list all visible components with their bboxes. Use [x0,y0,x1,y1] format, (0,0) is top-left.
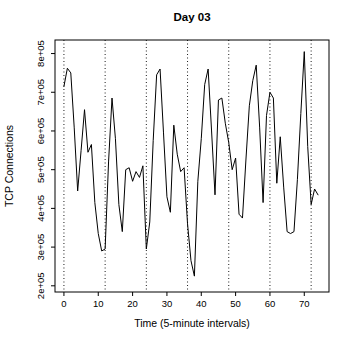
x-tick-label: 0 [61,298,66,309]
y-tick-label: 6e+05 [35,118,46,145]
x-tick-label: 10 [93,298,104,309]
hour-gridlines [64,40,311,292]
x-axis-label: Time (5-minute intervals) [134,317,250,329]
chart-title: Day 03 [173,11,210,23]
plot-border [55,40,329,292]
chart-canvas: Day 03 010203040506070 2e+053e+054e+055e… [0,0,345,346]
tcp-connections-line [64,52,318,277]
y-axis-ticks: 2e+053e+054e+055e+056e+057e+058e+05 [35,40,55,299]
x-tick-label: 30 [162,298,173,309]
x-tick-label: 50 [230,298,241,309]
r-plot-figure: Day 03 010203040506070 2e+053e+054e+055e… [0,0,345,346]
y-tick-label: 8e+05 [35,40,46,67]
y-tick-label: 4e+05 [35,195,46,222]
y-axis-label: TCP Connections [3,125,15,207]
x-tick-label: 20 [127,298,138,309]
y-tick-label: 2e+05 [35,272,46,299]
y-tick-label: 7e+05 [35,79,46,106]
y-tick-label: 5e+05 [35,156,46,183]
data-series [64,52,318,277]
y-tick-label: 3e+05 [35,234,46,261]
x-tick-label: 40 [196,298,207,309]
x-axis-ticks: 010203040506070 [61,292,309,309]
x-tick-label: 60 [265,298,276,309]
x-tick-label: 70 [299,298,310,309]
